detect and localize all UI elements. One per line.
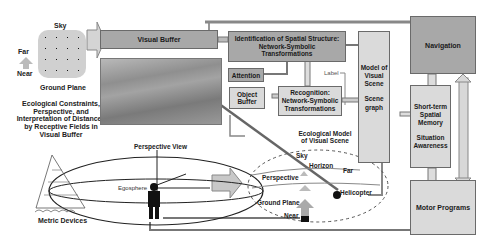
eco-ground-plane-label: Ground Plane — [257, 199, 300, 206]
short-term-line: Short-term — [414, 103, 447, 111]
eco-horizon-label: Horizon — [309, 162, 333, 169]
recognition-line: Recognition: — [290, 89, 330, 97]
perspective-up-arrow-icon — [296, 199, 314, 208]
short-term-line: Situation — [417, 134, 445, 142]
metric-devices-caption: Metric Devices — [38, 217, 87, 225]
identification-line: Identification of Spatial Structure: — [235, 35, 339, 43]
model-visual-scene-box: Model of Visual Scene Scene graph — [358, 31, 390, 163]
object-buffer-line: Object — [237, 91, 257, 98]
visual-buffer-label: Visual Buffer — [137, 36, 180, 43]
perspective-small-arrow-icon — [300, 171, 308, 176]
egosphere-label: Egosphere — [118, 185, 147, 191]
navigation-label: Navigation — [425, 42, 461, 49]
model-scene-line: Scene — [364, 80, 383, 88]
recognition-line: Transformations — [285, 105, 336, 113]
eco-far-label: Far — [343, 167, 353, 174]
short-term-line: Awareness — [413, 142, 447, 150]
eco-perspective-label: Perspective — [262, 174, 299, 181]
perspective-mid-arrow-icon — [299, 185, 311, 191]
eco-title-line: Ecological Model — [290, 130, 360, 137]
terrain-photo — [100, 58, 222, 125]
short-term-line: Memory — [418, 119, 443, 127]
motor-programs-box: Motor Programs — [410, 180, 476, 235]
identification-line: Transformations — [262, 50, 313, 58]
perspective-up-arrow-shaft — [301, 208, 309, 216]
identification-line: Network-Symbolic — [259, 43, 316, 51]
navigation-box: Navigation — [410, 16, 476, 74]
motor-programs-label: Motor Programs — [416, 204, 470, 211]
eco-sky-label: Sky — [296, 152, 308, 159]
visual-buffer-box: Visual Buffer — [100, 30, 218, 49]
ecological-model-title: Ecological Model of Visual Scene — [290, 130, 360, 144]
model-scene-line: Visual — [364, 72, 383, 80]
object-buffer-line: Buffer — [237, 98, 256, 105]
model-scene-line: Scene — [364, 95, 383, 103]
identification-box: Identification of Spatial Structure: Net… — [228, 31, 346, 62]
model-scene-line: graph — [365, 104, 383, 112]
short-term-line: Spatial — [420, 111, 441, 119]
short-term-memory-box: Short-term Spatial Memory Situation Awar… — [410, 85, 451, 168]
perspective-view-title: Perspective View — [134, 143, 187, 150]
eco-title-line: of Visual Scene — [290, 137, 360, 144]
recognition-box: Recognition: Network-Symbolic Transforma… — [278, 86, 342, 116]
near-marker-icon — [301, 216, 309, 222]
eco-near-label: Near — [284, 212, 298, 219]
attention-label: Attention — [232, 72, 261, 79]
recognition-line: Network-Symbolic — [282, 97, 339, 105]
attention-box: Attention — [228, 68, 264, 82]
model-scene-line: Model of — [361, 64, 388, 72]
eco-helicopter-label: Helicopter — [340, 189, 372, 196]
object-buffer-box: Object Buffer — [229, 87, 265, 109]
label-text: Label — [324, 70, 339, 76]
